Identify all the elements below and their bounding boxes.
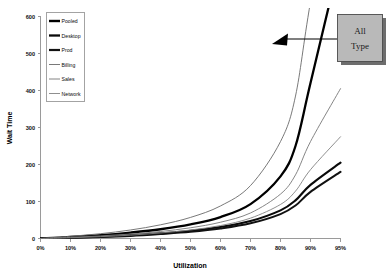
y-tick-label: 300	[26, 125, 35, 131]
x-tick-label: 10%	[65, 245, 76, 251]
legend-label-billing: Billing	[62, 62, 76, 68]
curve-group	[41, 0, 341, 239]
y-axis-title: Wait Time	[6, 112, 13, 145]
legend-label-prod: Prod	[62, 47, 73, 53]
y-tick-label: 200	[26, 162, 35, 168]
x-tick-label: 40%	[155, 245, 166, 251]
y-tick-label: 500	[26, 51, 35, 57]
series-line-prod	[41, 172, 341, 239]
legend-label-pooled: Pooled	[62, 18, 78, 24]
x-tick-label: 0%	[36, 245, 44, 251]
y-tick-label: 600	[26, 14, 35, 20]
x-tick-label: 90%	[305, 245, 316, 251]
chart-screenshot: 600 500 400 300 200 100 0 0% 10% 20% 30%	[0, 0, 392, 279]
series-line-billing	[41, 0, 341, 239]
x-tick-label: 50%	[185, 245, 196, 251]
x-tick-label: 95%	[335, 245, 346, 251]
x-tick-label: 30%	[125, 245, 136, 251]
x-tick-label: 20%	[95, 245, 106, 251]
series-line-sales	[41, 89, 341, 239]
series-line-network	[41, 137, 341, 239]
legend-label-sales: Sales	[62, 76, 75, 82]
legend: Pooled Desktop Prod Billing Sales Networ	[47, 13, 85, 102]
x-axis-title: Utilization	[173, 262, 206, 269]
x-tick-label: 80%	[275, 245, 286, 251]
y-tick-label: 0	[32, 236, 35, 242]
wait-time-chart: 600 500 400 300 200 100 0 0% 10% 20% 30%	[0, 0, 392, 279]
callout-box	[338, 15, 383, 62]
callout-annotation: All Type	[272, 15, 386, 66]
x-axis-ticks: 0% 10% 20% 30% 40% 50% 60% 70% 80% 90% 9…	[36, 239, 346, 252]
callout-text-line1: All	[354, 26, 366, 36]
x-tick-label: 70%	[245, 245, 256, 251]
legend-label-desktop: Desktop	[62, 33, 81, 39]
y-tick-label: 100	[26, 199, 35, 205]
callout-arrow-head	[272, 34, 288, 46]
series-line-pooled	[41, 0, 341, 239]
y-axis-ticks: 600 500 400 300 200 100 0	[26, 14, 41, 242]
y-tick-label: 400	[26, 88, 35, 94]
x-tick-label: 60%	[215, 245, 226, 251]
callout-text-line2: Type	[351, 41, 369, 51]
legend-label-network: Network	[62, 91, 81, 97]
legend-box	[47, 13, 85, 102]
